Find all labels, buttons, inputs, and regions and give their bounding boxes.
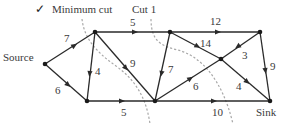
arrow-icon [158,70,164,77]
arrow-icon [87,71,93,78]
cut-1-label: Cut 1 [132,3,156,15]
capacity-c-d: 7 [168,63,174,75]
arrow-icon [132,29,138,34]
node-d [153,99,158,104]
capacity-source-b: 6 [55,84,61,96]
node-a [93,30,98,35]
arrow-icon [119,98,125,103]
capacity-a-c: 5 [130,16,136,28]
sink-label: Sink [256,106,277,118]
edge-source-b [45,64,87,101]
node-f [219,57,224,62]
edge-e-sink [260,32,270,101]
edge-source-a [45,32,95,64]
node-c [168,30,173,35]
checkmark-icon: ✓ [35,2,45,16]
node-e [258,30,263,35]
arrow-icon [215,29,221,34]
edge-e-f [221,32,260,59]
node-sink [268,99,273,104]
capacity-d-sink: 10 [212,106,224,118]
capacity-b-d: 5 [121,106,127,118]
capacity-source-a: 7 [64,32,70,44]
capacity-e-sink: 9 [270,60,276,72]
node-source [43,62,48,67]
minimum-cut-label: Minimum cut [52,3,112,15]
capacity-a-d: 9 [130,57,136,69]
source-label: Source [3,51,34,63]
capacity-c-f: 14 [200,37,212,49]
capacity-e-f: 3 [242,49,248,61]
flow-network-diagram: ✓ Minimum cut Cut 1 Source Sink 7 6 4 5 … [0,0,299,124]
arrow-icon [211,98,217,103]
capacity-d-f: 6 [193,80,199,92]
node-b [85,99,90,104]
capacity-f-sink: 4 [236,80,242,92]
capacity-c-e: 12 [210,15,221,27]
capacity-a-b: 4 [95,65,101,77]
